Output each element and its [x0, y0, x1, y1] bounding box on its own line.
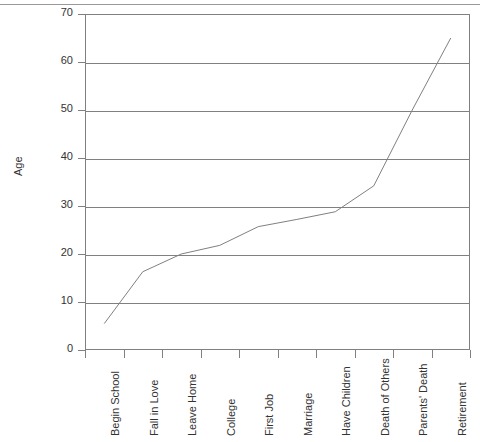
- y-tick-mark-30: [78, 206, 85, 207]
- x-tick-mark-0: [85, 350, 86, 358]
- x-tick-mark-10: [470, 350, 471, 358]
- y-tick-label-60: 60: [61, 54, 73, 66]
- x-tick-mark-5: [278, 350, 279, 358]
- y-tick-label-10: 10: [61, 294, 73, 306]
- x-tick-mark-7: [355, 350, 356, 358]
- gridline-y-60: [86, 63, 469, 64]
- x-tick-mark-6: [316, 350, 317, 358]
- x-tick-label-first-job: First Job: [263, 394, 275, 436]
- y-tick-label-30: 30: [61, 198, 73, 210]
- y-tick-label-20: 20: [61, 246, 73, 258]
- y-tick-label-70: 70: [61, 6, 73, 18]
- y-tick-mark-10: [78, 302, 85, 303]
- y-tick-label-0: 0: [67, 342, 73, 354]
- y-tick-mark-20: [78, 254, 85, 255]
- line-chart: Age 010203040506070 Begin SchoolFall in …: [0, 0, 480, 442]
- x-tick-label-college: College: [225, 399, 237, 436]
- x-tick-label-begin-school: Begin School: [109, 371, 121, 436]
- x-tick-label-fall-in-love: Fall in Love: [148, 380, 160, 436]
- y-tick-mark-60: [78, 62, 85, 63]
- gridline-y-40: [86, 159, 469, 160]
- x-tick-label-retirement: Retirement: [456, 382, 468, 436]
- gridline-y-30: [86, 207, 469, 208]
- top-divider-rule: [0, 4, 480, 5]
- x-tick-mark-3: [201, 350, 202, 358]
- x-tick-mark-9: [432, 350, 433, 358]
- x-tick-mark-1: [124, 350, 125, 358]
- y-tick-label-50: 50: [61, 102, 73, 114]
- x-tick-label-death-of-others: Death of Others: [379, 358, 391, 436]
- gridline-y-50: [86, 111, 469, 112]
- x-tick-mark-8: [393, 350, 394, 358]
- x-tick-label-have-children: Have Children: [340, 366, 352, 436]
- x-tick-label-marriage: Marriage: [302, 393, 314, 436]
- x-tick-mark-2: [162, 350, 163, 358]
- gridline-y-20: [86, 255, 469, 256]
- y-tick-mark-0: [78, 350, 85, 351]
- gridline-y-10: [86, 303, 469, 304]
- y-tick-mark-40: [78, 158, 85, 159]
- x-tick-mark-4: [239, 350, 240, 358]
- y-axis-title: Age: [12, 156, 24, 176]
- x-tick-label-parents-death: Parents' Death: [417, 364, 429, 436]
- y-tick-mark-70: [78, 14, 85, 15]
- y-tick-label-40: 40: [61, 150, 73, 162]
- x-tick-label-leave-home: Leave Home: [186, 374, 198, 436]
- plot-area: [85, 14, 470, 350]
- y-tick-mark-50: [78, 110, 85, 111]
